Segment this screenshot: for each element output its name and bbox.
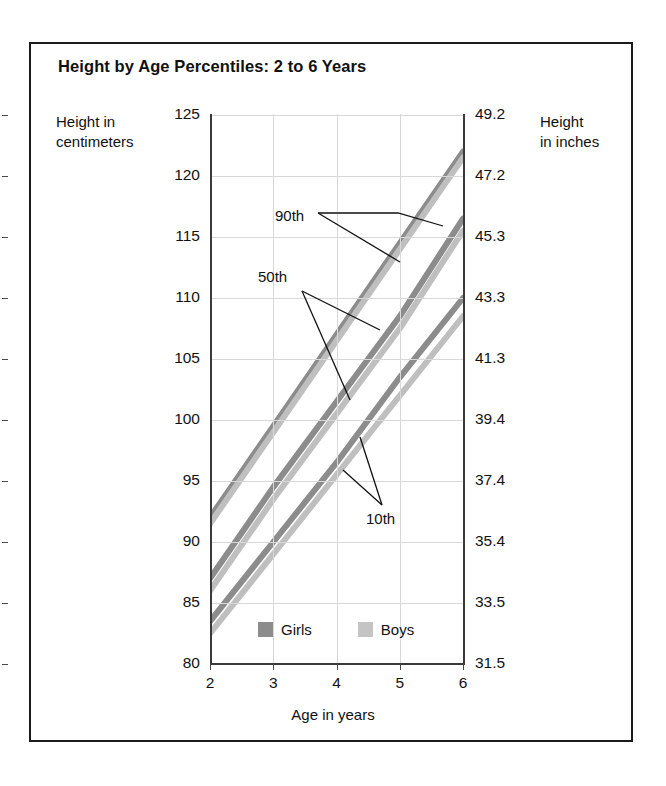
x-tick-label: 2 — [195, 674, 225, 692]
x-axis-label: Age in years — [0, 706, 666, 723]
y-tickmark — [2, 176, 8, 177]
gridline-vertical — [273, 114, 274, 664]
gridline-horizontal — [210, 237, 465, 238]
gridline-horizontal — [210, 176, 465, 177]
y-tickmark — [2, 542, 8, 543]
y-axis-label-left-line2: centimeters — [56, 132, 134, 152]
x-tickmark — [463, 664, 464, 670]
x-tick-label: 3 — [258, 674, 288, 692]
y-tick-label-inches: 43.3 — [475, 288, 531, 306]
y-tickmark — [2, 603, 8, 604]
y-axis-label-left: Height in centimeters — [56, 112, 134, 152]
y-tickmark — [2, 237, 8, 238]
y-tick-label-cm: 110 — [152, 288, 200, 306]
gridline-horizontal — [210, 603, 465, 604]
chart-legend: Girls Boys — [258, 621, 414, 638]
x-tick-label: 4 — [322, 674, 352, 692]
legend-label-girls: Girls — [281, 621, 312, 638]
y-tick-label-cm: 80 — [152, 654, 200, 672]
x-tick-label: 6 — [448, 674, 478, 692]
axis-line — [210, 114, 212, 664]
gridline-horizontal — [210, 115, 465, 116]
y-tickmark — [2, 481, 8, 482]
y-tick-label-cm: 115 — [152, 227, 200, 245]
gridline-horizontal — [210, 481, 465, 482]
x-tickmark — [273, 664, 274, 670]
x-tick-label: 5 — [385, 674, 415, 692]
y-axis-label-right-line2: in inches — [540, 132, 599, 152]
gridline-vertical — [400, 114, 401, 664]
y-tick-label-cm: 100 — [152, 410, 200, 428]
y-tick-label-cm: 90 — [152, 532, 200, 550]
x-tickmark — [400, 664, 401, 670]
y-axis-label-left-line1: Height in — [56, 112, 134, 132]
axis-line — [210, 663, 465, 665]
y-tickmark — [2, 298, 8, 299]
gridline-horizontal — [210, 359, 465, 360]
legend-item-girls: Girls — [258, 621, 312, 638]
chart-title: Height by Age Percentiles: 2 to 6 Years — [58, 57, 366, 76]
axis-line — [463, 114, 465, 664]
y-tick-label-cm: 85 — [152, 593, 200, 611]
legend-label-boys: Boys — [381, 621, 414, 638]
y-tick-label-cm: 120 — [152, 166, 200, 184]
y-tick-label-inches: 41.3 — [475, 349, 531, 367]
y-tickmark — [2, 359, 8, 360]
y-tick-label-cm: 95 — [152, 471, 200, 489]
gridline-horizontal — [210, 420, 465, 421]
x-tickmark — [210, 664, 211, 670]
legend-item-boys: Boys — [358, 621, 414, 638]
y-tickmark — [2, 664, 8, 665]
y-tick-label-inches: 49.2 — [475, 105, 531, 123]
gridline-horizontal — [210, 298, 465, 299]
legend-swatch-boys — [358, 622, 373, 637]
legend-swatch-girls — [258, 622, 273, 637]
chart-curves — [210, 114, 465, 664]
y-axis-label-right: Height in inches — [540, 112, 599, 152]
y-tick-label-inches: 33.5 — [475, 593, 531, 611]
y-tick-label-inches: 37.4 — [475, 471, 531, 489]
y-tick-label-inches: 39.4 — [475, 410, 531, 428]
y-tick-label-cm: 125 — [152, 105, 200, 123]
x-tickmark — [337, 664, 338, 670]
gridline-horizontal — [210, 542, 465, 543]
y-tick-label-cm: 105 — [152, 349, 200, 367]
y-tickmark — [2, 115, 8, 116]
y-tick-label-inches: 47.2 — [475, 166, 531, 184]
plot-area — [210, 114, 465, 664]
y-axis-label-right-line1: Height — [540, 112, 599, 132]
y-tick-label-inches: 45.3 — [475, 227, 531, 245]
y-tick-label-inches: 31.5 — [475, 654, 531, 672]
y-tick-label-inches: 35.4 — [475, 532, 531, 550]
gridline-vertical — [337, 114, 338, 664]
y-tickmark — [2, 420, 8, 421]
